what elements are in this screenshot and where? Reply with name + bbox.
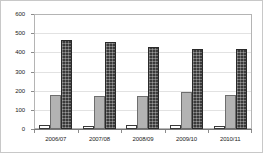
x-axis-labels: 2006/072007/082008/092009/102010/11 bbox=[34, 135, 252, 149]
x-tick-label: 2010/11 bbox=[208, 135, 252, 149]
x-tick-label: 2006/07 bbox=[34, 135, 78, 149]
y-tick-label: 100 bbox=[15, 107, 25, 113]
chart-screenshot: 6005004003002001000 2006/072007/082008/0… bbox=[0, 0, 263, 153]
x-tick-mark bbox=[251, 130, 252, 133]
bar-group bbox=[165, 14, 209, 129]
bar bbox=[94, 96, 105, 129]
y-tick-label: 600 bbox=[15, 11, 25, 17]
bar-groups bbox=[34, 14, 252, 129]
y-tick-mark bbox=[31, 14, 34, 15]
bar bbox=[105, 42, 116, 129]
y-tick-mark bbox=[31, 33, 34, 34]
bar-group bbox=[78, 14, 122, 129]
y-axis: 6005004003002001000 bbox=[1, 1, 30, 153]
y-tick-label: 0 bbox=[22, 126, 25, 132]
bar-group bbox=[121, 14, 165, 129]
y-tick-label: 500 bbox=[15, 30, 25, 36]
y-tick-mark bbox=[31, 91, 34, 92]
y-tick-mark bbox=[31, 52, 34, 53]
bar bbox=[192, 49, 203, 129]
x-tick-label: 2008/09 bbox=[121, 135, 165, 149]
bar-group bbox=[208, 14, 252, 129]
y-tick-mark bbox=[31, 110, 34, 111]
x-tick-mark bbox=[78, 130, 79, 133]
x-tick-label: 2007/08 bbox=[78, 135, 122, 149]
bar bbox=[181, 92, 192, 129]
y-tick-label: 300 bbox=[15, 69, 25, 75]
bar-group bbox=[34, 14, 78, 129]
y-tick-mark bbox=[31, 129, 34, 130]
y-tick-mark bbox=[31, 72, 34, 73]
x-tick-mark bbox=[121, 130, 122, 133]
bar bbox=[137, 96, 148, 129]
bar bbox=[236, 49, 247, 129]
y-tick-label: 400 bbox=[15, 49, 25, 55]
x-tick-mark bbox=[208, 130, 209, 133]
bar bbox=[61, 40, 72, 129]
bar bbox=[50, 95, 61, 129]
bar bbox=[225, 95, 236, 129]
bar bbox=[148, 47, 159, 129]
x-tick-mark bbox=[165, 130, 166, 133]
x-axis-tick-marks bbox=[34, 130, 252, 133]
x-tick-mark bbox=[34, 130, 35, 133]
y-tick-label: 200 bbox=[15, 88, 25, 94]
x-tick-label: 2009/10 bbox=[165, 135, 209, 149]
